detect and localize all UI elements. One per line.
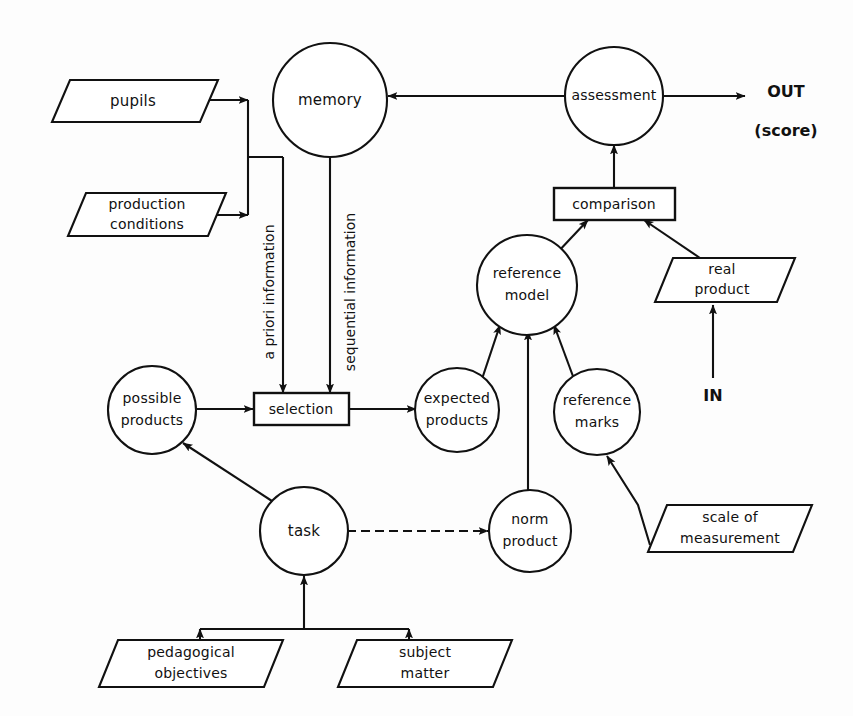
node-reference-model-label-line1: reference (493, 265, 562, 281)
node-pedagogical-objectives-label-line1: pedagogical (147, 644, 235, 660)
node-scale-of-measurement-label-line2: measurement (680, 530, 780, 546)
node-task-label: task (288, 522, 320, 540)
node-scale-of-measurement-label-line1: scale of (702, 509, 758, 525)
node-assessment[interactable]: assessment (565, 47, 663, 145)
node-expected-products-label-line2: products (426, 412, 489, 428)
diagram-canvas: pupils production conditions memory asse… (0, 0, 853, 716)
node-reference-marks[interactable]: reference marks (554, 369, 640, 455)
node-norm-product-label-line1: norm (511, 511, 548, 527)
edge-label-sequential-information: sequential information (342, 213, 358, 371)
node-scale-of-measurement[interactable]: scale of measurement (648, 505, 812, 552)
node-subject-matter-label-line1: subject (399, 644, 451, 660)
node-norm-product-label-line2: product (502, 533, 558, 549)
node-comparison-label: comparison (572, 196, 656, 212)
node-production-conditions-label-line2: conditions (110, 216, 184, 232)
edge-task-to-possible-products (183, 443, 275, 503)
node-real-product[interactable]: real product (655, 258, 795, 302)
node-reference-model-label-line2: model (505, 287, 550, 303)
edge-real-product-to-comparison (644, 220, 700, 258)
node-selection-label: selection (269, 401, 334, 417)
edge-label-a-priori-information: a priori information (261, 224, 277, 359)
node-real-product-label-line2: product (694, 281, 750, 297)
terminal-out: OUT (score) (754, 82, 817, 140)
node-memory-label: memory (298, 91, 362, 109)
node-expected-products-label-line1: expected (424, 390, 490, 406)
flow-diagram-svg: pupils production conditions memory asse… (0, 0, 853, 716)
node-pedagogical-objectives-label-line2: objectives (154, 665, 227, 681)
node-subject-matter-label-line2: matter (401, 665, 450, 681)
node-possible-products[interactable]: possible products (108, 366, 196, 454)
terminal-out-label: OUT (767, 82, 805, 101)
node-real-product-label-line1: real (708, 261, 735, 277)
node-pedagogical-objectives[interactable]: pedagogical objectives (99, 640, 283, 687)
edge-reference-marks-to-reference-model (554, 325, 574, 379)
node-pupils-label: pupils (110, 92, 156, 110)
node-expected-products[interactable]: expected products (415, 368, 499, 452)
node-reference-model[interactable]: reference model (477, 235, 577, 335)
node-production-conditions[interactable]: production conditions (68, 193, 226, 236)
node-pupils[interactable]: pupils (52, 80, 218, 122)
node-reference-marks-label-line1: reference (563, 392, 632, 408)
edge-scale-to-reference-marks (607, 456, 650, 545)
node-task[interactable]: task (260, 487, 348, 575)
terminal-out-sublabel: (score) (754, 121, 817, 140)
node-memory[interactable]: memory (273, 43, 387, 157)
node-possible-products-label-line2: products (121, 412, 184, 428)
node-comparison[interactable]: comparison (554, 188, 675, 220)
node-norm-product[interactable]: norm product (489, 490, 571, 572)
node-assessment-label: assessment (572, 87, 657, 103)
node-selection[interactable]: selection (254, 393, 349, 425)
edge-expected-products-to-reference-model (482, 325, 500, 379)
node-possible-products-label-line1: possible (123, 390, 182, 406)
terminal-in-label: IN (703, 386, 722, 405)
node-production-conditions-label-line1: production (108, 196, 185, 212)
node-subject-matter[interactable]: subject matter (338, 640, 512, 687)
node-reference-marks-label-line2: marks (575, 414, 619, 430)
terminal-in: IN (703, 386, 722, 405)
